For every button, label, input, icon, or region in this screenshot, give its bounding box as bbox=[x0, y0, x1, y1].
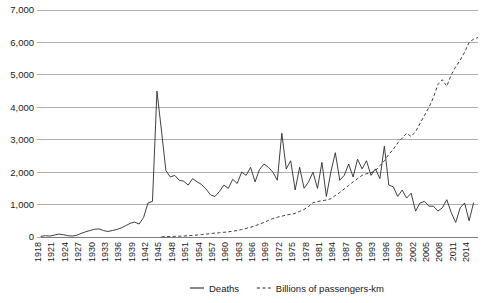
x-tick-label-2008: 2008 bbox=[434, 242, 444, 262]
y-axis-tick-labels: 01,0002,0003,0004,0005,0006,0007,000 bbox=[10, 4, 34, 242]
x-tick-label-1930: 1930 bbox=[87, 242, 97, 262]
x-tick-label-1936: 1936 bbox=[113, 242, 123, 262]
x-tick-label-1927: 1927 bbox=[73, 242, 83, 262]
x-tick-label-1939: 1939 bbox=[127, 242, 137, 262]
x-tick-label-1966: 1966 bbox=[247, 242, 257, 262]
x-tick-label-1978: 1978 bbox=[301, 242, 311, 262]
x-tick-label-1969: 1969 bbox=[260, 242, 270, 262]
x-tick-label-1942: 1942 bbox=[140, 242, 150, 262]
x-tick-label-1996: 1996 bbox=[381, 242, 391, 262]
x-tick-label-1990: 1990 bbox=[354, 242, 364, 262]
gridlines-group bbox=[37, 10, 478, 237]
y-tick-label-6000: 6,000 bbox=[10, 37, 34, 48]
chart-legend: DeathsBillions of passengers-km bbox=[190, 283, 384, 294]
plot-series-group bbox=[41, 38, 478, 237]
y-tick-label-0: 0 bbox=[29, 231, 34, 242]
x-tick-label-1984: 1984 bbox=[327, 242, 337, 262]
x-tick-label-1981: 1981 bbox=[314, 242, 324, 262]
x-tick-label-1948: 1948 bbox=[167, 242, 177, 262]
x-tick-label-1975: 1975 bbox=[287, 242, 297, 262]
x-tick-label-1993: 1993 bbox=[367, 242, 377, 262]
x-tick-label-1945: 1945 bbox=[153, 242, 163, 262]
series-line-passengers-km bbox=[161, 38, 478, 237]
x-tick-label-1954: 1954 bbox=[194, 242, 204, 262]
x-tick-label-1972: 1972 bbox=[274, 242, 284, 262]
chart-container: 01,0002,0003,0004,0005,0006,0007,000 191… bbox=[0, 0, 484, 303]
x-tick-label-1987: 1987 bbox=[341, 242, 351, 262]
chart-svg: 01,0002,0003,0004,0005,0006,0007,000 191… bbox=[0, 0, 484, 303]
x-tick-label-2005: 2005 bbox=[421, 242, 431, 262]
legend-label-passengers-km: Billions of passengers-km bbox=[276, 283, 384, 294]
x-tick-label-1951: 1951 bbox=[180, 242, 190, 262]
x-tick-label-1924: 1924 bbox=[60, 242, 70, 262]
x-tick-label-1921: 1921 bbox=[46, 242, 56, 262]
x-tick-label-1918: 1918 bbox=[33, 242, 43, 262]
y-tick-label-1000: 1,000 bbox=[10, 199, 34, 210]
y-tick-label-2000: 2,000 bbox=[10, 167, 34, 178]
legend-label-deaths: Deaths bbox=[209, 283, 239, 294]
x-tick-label-1960: 1960 bbox=[220, 242, 230, 262]
x-tick-label-1999: 1999 bbox=[394, 242, 404, 262]
y-tick-label-3000: 3,000 bbox=[10, 134, 34, 145]
x-tick-label-1963: 1963 bbox=[234, 242, 244, 262]
x-axis-tick-labels: 1918192119241927193019331936193919421945… bbox=[33, 242, 471, 262]
series-line-deaths bbox=[41, 91, 474, 236]
x-tick-label-1957: 1957 bbox=[207, 242, 217, 262]
x-tick-label-1933: 1933 bbox=[100, 242, 110, 262]
y-tick-label-5000: 5,000 bbox=[10, 69, 34, 80]
x-tick-label-2011: 2011 bbox=[448, 242, 458, 261]
x-tick-label-2002: 2002 bbox=[408, 242, 418, 262]
x-tick-label-2014: 2014 bbox=[461, 242, 471, 262]
y-tick-label-4000: 4,000 bbox=[10, 102, 34, 113]
y-tick-label-7000: 7,000 bbox=[10, 4, 34, 15]
